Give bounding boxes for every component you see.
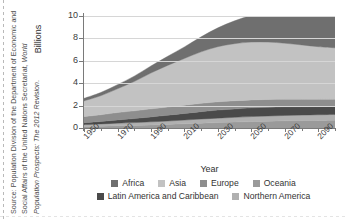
page-edge-rule-bottom	[0, 216, 347, 217]
y-axis-tick-label: 10	[56, 10, 78, 20]
stacked-area-svg	[84, 16, 335, 128]
legend-swatch-icon	[158, 180, 165, 187]
x-axis-tick-mark	[101, 128, 102, 131]
y-axis-tick-label: 6	[56, 55, 78, 65]
y-axis-tick-mark	[79, 16, 83, 17]
chart-legend: AfricaAsiaEuropeOceaniaLatin America and…	[60, 177, 347, 203]
y-axis-tick-mark	[79, 106, 83, 107]
x-axis-tick-mark	[335, 128, 336, 131]
gridline	[84, 38, 335, 39]
legend-label: Africa	[122, 179, 144, 188]
legend-label: Asia	[169, 179, 186, 188]
y-axis-tick-mark	[79, 128, 83, 129]
y-axis-title: Billions	[33, 0, 43, 79]
gridline	[84, 16, 335, 17]
y-axis-tick-mark	[79, 38, 83, 39]
x-axis-tick-mark	[268, 128, 269, 131]
x-axis-title: Year	[84, 164, 335, 174]
legend-label: Latin America and Caribbean	[108, 192, 219, 201]
legend-item-africa[interactable]: Africa	[111, 179, 144, 188]
gridline	[84, 106, 335, 107]
legend-swatch-icon	[97, 193, 104, 200]
legend-item-asia[interactable]: Asia	[158, 179, 186, 188]
legend-swatch-icon	[200, 180, 207, 187]
legend-item-europe[interactable]: Europe	[200, 179, 239, 188]
y-axis-tick-label: 0	[56, 122, 78, 132]
y-axis-tick-mark	[79, 61, 83, 62]
gridline	[84, 83, 335, 84]
legend-swatch-icon	[253, 180, 260, 187]
legend-item-oceania[interactable]: Oceania	[253, 179, 296, 188]
legend-label: Europe	[211, 179, 239, 188]
figure-world-population-by-region: Source: Population Division of the Depar…	[0, 0, 347, 220]
legend-swatch-icon	[232, 193, 239, 200]
y-axis-tick-label: 2	[56, 100, 78, 110]
legend-label: Northern America	[243, 192, 310, 201]
source-note-prefix: Source: Population Division of the Depar…	[10, 11, 29, 214]
legend-swatch-icon	[111, 180, 118, 187]
source-note-suffix: .	[33, 80, 41, 82]
gridline	[84, 61, 335, 62]
y-axis-tick-label: 8	[56, 32, 78, 42]
x-axis-tick-mark	[168, 128, 169, 131]
x-axis-tick-mark	[201, 128, 202, 131]
y-axis-tick-mark	[79, 83, 83, 84]
y-axis-labels: 0246810	[52, 0, 78, 145]
y-axis-tick-label: 4	[56, 77, 78, 87]
legend-label: Oceania	[264, 179, 296, 188]
legend-row: AfricaAsiaEuropeOceania	[60, 177, 347, 190]
legend-row: Latin America and CaribbeanNorthern Amer…	[60, 190, 347, 203]
plot-area	[84, 16, 335, 128]
legend-item-latin-america-and-caribbean[interactable]: Latin America and Caribbean	[97, 192, 219, 201]
source-note-container: Source: Population Division of the Depar…	[0, 0, 52, 220]
legend-item-northern-america[interactable]: Northern America	[232, 192, 310, 201]
